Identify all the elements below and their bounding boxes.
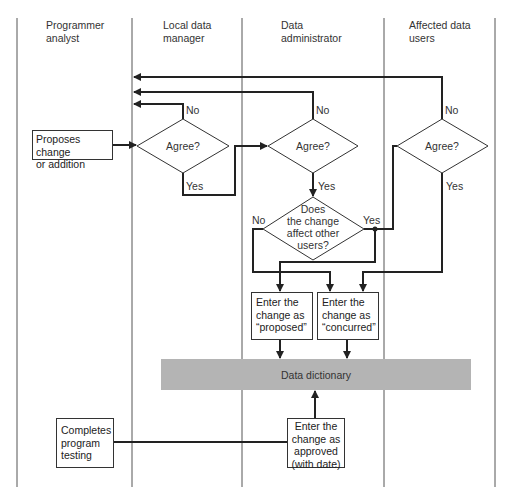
lane-header-line: Data <box>281 19 342 32</box>
completes-testing-box: Completes program testing <box>56 418 114 468</box>
agree-users-label: Agree? <box>412 140 472 152</box>
diamond-text: affect other <box>273 227 353 239</box>
lane-header-line: Local data <box>163 19 211 32</box>
box-text: program <box>61 437 109 450</box>
lane-header-line: analyst <box>46 32 104 45</box>
edge-label-yes-affects: Yes <box>363 214 380 226</box>
diamond-text: the change <box>273 215 353 227</box>
box-text: change as <box>256 309 308 322</box>
data-dictionary-label: Data dictionary <box>281 369 351 381</box>
edge-label-no-admin: No <box>316 104 329 116</box>
edge-label-yes-users: Yes <box>446 180 463 192</box>
edge-label-no-affects: No <box>252 214 265 226</box>
lane-header-line: administrator <box>281 32 342 45</box>
lane-header-line: manager <box>163 32 211 45</box>
lane-header-line: Affected data <box>409 19 471 32</box>
box-text: Enter the <box>256 296 308 309</box>
enter-proposed-box: Enter the change as “proposed” <box>251 292 313 340</box>
edge-label-yes-local: Yes <box>186 180 203 192</box>
diamond-text: users? <box>273 239 353 251</box>
box-text: change as <box>322 309 374 322</box>
edge-label-yes-admin: Yes <box>318 180 335 192</box>
lane-header-affected-data-users: Affected data users <box>409 19 471 45</box>
box-text: Enter the <box>290 420 342 433</box>
box-text: (with date) <box>290 458 342 471</box>
edge-label-no-users: No <box>445 104 458 116</box>
lane-header-programmer-analyst: Programmer analyst <box>46 19 104 45</box>
box-text: approved <box>290 445 342 458</box>
box-text: Enter the <box>322 296 374 309</box>
box-text: “proposed” <box>256 321 308 334</box>
box-text: Completes <box>61 424 109 437</box>
lane-header-line: users <box>409 32 471 45</box>
lane-header-data-administrator: Data administrator <box>281 19 342 45</box>
lane-dividers <box>17 18 495 487</box>
agree-admin-label: Agree? <box>283 140 343 152</box>
agree-local-label: Agree? <box>153 140 213 152</box>
enter-concurred-box: Enter the change as “concurred” <box>317 292 379 340</box>
box-text: “concurred” <box>322 321 374 334</box>
data-dictionary-bar: Data dictionary <box>161 359 471 390</box>
diamond-text: Does <box>273 203 353 215</box>
box-text: or addition <box>36 158 109 171</box>
box-text: change as <box>290 433 342 446</box>
proposes-change-box: Proposes change or addition <box>32 130 113 160</box>
edge-label-no-local: No <box>186 104 199 116</box>
lane-header-local-data-manager: Local data manager <box>163 19 211 45</box>
lane-header-line: Programmer <box>46 19 104 32</box>
box-text: testing <box>61 449 109 462</box>
affects-other-users-label: Does the change affect other users? <box>273 203 353 251</box>
enter-approved-box: Enter the change as approved (with date) <box>287 418 345 468</box>
box-text: Proposes change <box>36 133 109 158</box>
junction-dot <box>373 227 378 232</box>
